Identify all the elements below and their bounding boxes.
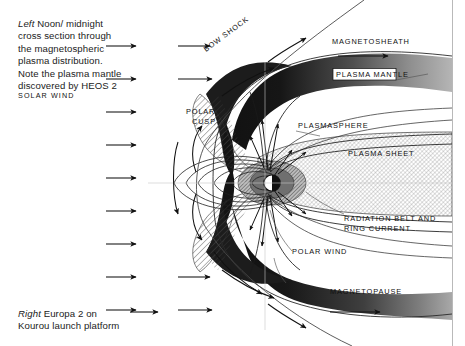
label-polar-cusp-line2: CUSP (192, 117, 216, 126)
caption-left-text: Noon/ midnight cross section through the… (18, 18, 122, 91)
label-plasma-mantle: PLASMA MANTLE (336, 70, 409, 79)
label-radiation-belt-line2: RING CURRENT (344, 224, 411, 233)
inflow-arrows (178, 46, 212, 310)
caption-left-keyword: Left (18, 18, 34, 29)
caption-left: Left Noon/ midnight cross section throug… (18, 18, 122, 92)
label-magnetopause: MAGNETOPAUSE (330, 287, 402, 296)
label-plasma-sheet: PLASMA SHEET (348, 149, 414, 158)
label-plasmasphere: PLASMASPHERE (298, 121, 369, 130)
label-radiation-belt-line1: RADIATION BELT AND (344, 214, 436, 223)
caption-right-keyword: Right (18, 308, 41, 319)
label-polar-cusp-line1: POLAR (186, 107, 215, 116)
figure-page: SOLAR WIND BOW SHOCK MAGNETOSHEATH PLASM… (0, 0, 465, 346)
label-bow-shock: BOW SHOCK (202, 14, 250, 53)
plasmasphere-leader (296, 131, 320, 136)
label-magnetosheath: MAGNETOSHEATH (332, 37, 410, 46)
caption-right: Right Europa 2 on Kourou launch platform (18, 308, 130, 333)
label-polar-wind: POLAR WIND (292, 247, 347, 256)
